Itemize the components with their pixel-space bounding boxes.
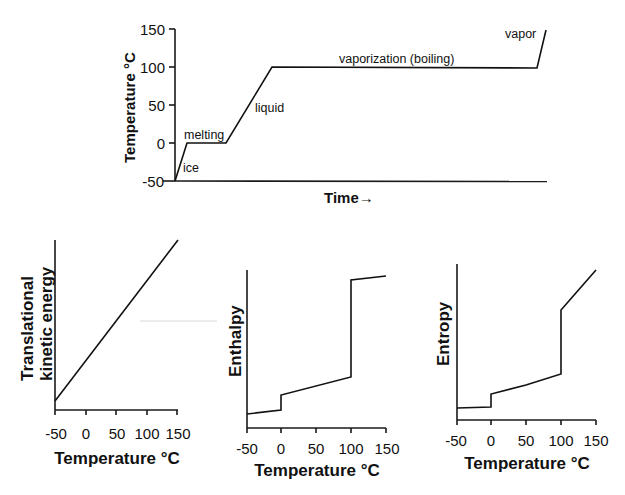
x-tick-label: 150	[165, 425, 190, 442]
y-tick-label: 0	[157, 135, 165, 152]
x-tick-label: -50	[45, 425, 67, 442]
kinetic-energy-chart: -50 0 50 100 150 Temperature °C Translat…	[18, 240, 191, 468]
x-tick-label: 50	[518, 432, 535, 449]
x-tick-label: 100	[338, 440, 363, 457]
enthalpy-chart: -50 0 50 100 150 Temperature °C Enthalpy	[226, 270, 400, 480]
label-ice: ice	[183, 161, 199, 175]
y-axis-title: Enthalpy	[226, 305, 245, 377]
entropy-chart: -50 0 50 100 150 Temperature °C Entropy	[434, 264, 609, 473]
y-axis-title-line2: kinetic energy	[37, 266, 56, 381]
y-axis-title: Entropy	[434, 301, 453, 366]
x-tick-label: 150	[374, 440, 399, 457]
x-tick-label: 150	[583, 432, 608, 449]
x-axis-title: Temperature °C	[54, 449, 180, 468]
x-tick-label: 50	[308, 440, 325, 457]
x-axis-title: Time→	[324, 189, 374, 206]
x-tick-label: 0	[487, 432, 495, 449]
x-tick-label: 50	[109, 425, 126, 442]
enthalpy-line	[247, 276, 386, 414]
label-liquid: liquid	[255, 101, 284, 115]
y-tick-label: -50	[142, 173, 164, 190]
y-tick-label: 50	[148, 97, 165, 114]
y-tick-label: 100	[140, 59, 165, 76]
label-vaporization: vaporization (boiling)	[339, 52, 454, 66]
figure: 150 100 50 0 -50 ice melting liquid vapo…	[0, 0, 625, 495]
entropy-line	[457, 270, 596, 408]
heating-curve-chart: 150 100 50 0 -50 ice melting liquid vapo…	[121, 21, 547, 206]
x-tick-label: -50	[236, 440, 258, 457]
x-axis-title: Temperature °C	[254, 461, 380, 480]
x-axis	[175, 181, 547, 182]
label-melting: melting	[184, 128, 224, 142]
x-tick-label: 100	[134, 425, 159, 442]
x-tick-label: -50	[445, 432, 467, 449]
y-axis-title: Temperature °C	[121, 52, 138, 163]
y-tick-label: 150	[140, 21, 165, 38]
label-vapor: vapor	[505, 27, 536, 41]
x-tick-label: 0	[82, 425, 90, 442]
y-axis-title-line1: Translational	[18, 276, 37, 381]
x-tick-label: 100	[548, 432, 573, 449]
x-tick-label: 0	[277, 440, 285, 457]
x-axis-title: Temperature °C	[464, 454, 590, 473]
